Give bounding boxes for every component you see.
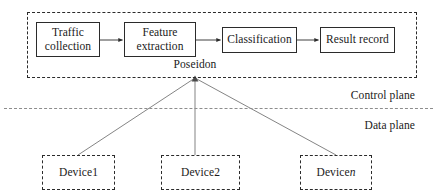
- device-box-device-n[interactable]: Device n: [300, 155, 372, 190]
- process-box-classification-line1: Classification: [225, 33, 294, 47]
- device-box-device-n-index: n: [350, 166, 356, 179]
- process-box-classification[interactable]: Classification: [222, 27, 297, 53]
- process-box-feature-extraction-line1: Feature: [135, 26, 186, 40]
- link-poseidon-device1: [78, 78, 195, 155]
- device-box-device1-label: Device1: [59, 166, 98, 179]
- device-box-device1[interactable]: Device1: [42, 155, 115, 190]
- process-box-traffic-collection-line2: collection: [43, 40, 93, 54]
- architecture-diagram: Poseidon Traffic collection Feature extr…: [0, 0, 437, 196]
- process-box-result-record[interactable]: Result record: [320, 27, 395, 53]
- device-box-device2[interactable]: Device2: [161, 155, 240, 190]
- process-box-feature-extraction[interactable]: Feature extraction: [124, 22, 196, 57]
- process-box-traffic-collection-line1: Traffic: [43, 26, 93, 40]
- control-plane-label: Control plane: [315, 89, 415, 102]
- device-box-device2-label: Device2: [181, 166, 220, 179]
- data-plane-label: Data plane: [315, 119, 415, 132]
- process-box-traffic-collection[interactable]: Traffic collection: [36, 22, 100, 57]
- device-box-device-n-label: Device: [316, 166, 349, 179]
- process-box-feature-extraction-line2: extraction: [135, 40, 186, 54]
- poseidon-container-label: Poseidon: [140, 58, 250, 71]
- process-box-result-record-line1: Result record: [324, 33, 391, 47]
- plane-divider: [4, 108, 433, 109]
